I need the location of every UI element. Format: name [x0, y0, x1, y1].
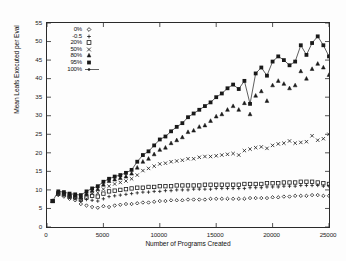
- series-0: [51, 193, 329, 209]
- legend-label: 20%: [53, 39, 82, 46]
- legend-item: 20%: [53, 39, 105, 46]
- legend-marker-plus-icon: [85, 33, 105, 40]
- y-tick-label: 25: [20, 130, 42, 137]
- legend-item: 100%: [53, 66, 105, 73]
- legend-label: 80%: [53, 52, 82, 59]
- y-axis-label: Mean Leafs Executed per Eval: [13, 0, 20, 140]
- legend-label: 100%: [53, 66, 82, 73]
- legend-item: 95%: [53, 59, 105, 66]
- y-tick-label: 20: [20, 149, 42, 156]
- y-tick-label: 0: [20, 223, 42, 230]
- x-tick-label: 0: [26, 231, 66, 238]
- y-tick-label: 5: [20, 204, 42, 211]
- y-tick-label: 35: [20, 93, 42, 100]
- legend-item: -0.5: [53, 33, 105, 40]
- legend-label: 0%: [53, 26, 82, 33]
- legend-marker-circle-filled-line-icon: [85, 66, 105, 73]
- legend-marker-square-open-icon: [85, 39, 105, 46]
- series-80: [51, 62, 329, 203]
- legend-label: 95%: [53, 59, 82, 66]
- y-tick-label: 50: [20, 37, 42, 44]
- x-tick-label: 15000: [195, 231, 235, 238]
- y-tick-label: 15: [20, 167, 42, 174]
- y-tick-label: 30: [20, 111, 42, 118]
- x-axis-label: Number of Programs Created: [46, 240, 330, 247]
- legend-marker-diamond-icon: [85, 26, 105, 33]
- legend-label: 50%: [53, 46, 82, 53]
- legend-item: 80%: [53, 52, 105, 59]
- legend-marker-x-icon: [85, 46, 105, 53]
- chart-legend: 0%-0.520%50%80%95%100%: [53, 26, 105, 72]
- y-tick-label: 40: [20, 74, 42, 81]
- legend-label: -0.5: [53, 33, 82, 40]
- legend-marker-triangle-icon: [85, 52, 105, 59]
- x-tick-label: 25000: [308, 231, 346, 238]
- x-tick-label: 20000: [252, 231, 292, 238]
- x-tick-label: 10000: [139, 231, 179, 238]
- legend-item: 50%: [53, 46, 105, 53]
- legend-item: 0%: [53, 26, 105, 33]
- x-tick-label: 5000: [82, 231, 122, 238]
- legend-marker-square-filled-icon: [85, 59, 105, 66]
- chart-figure: Mean Leafs Executed per Eval 05101520253…: [0, 0, 346, 261]
- y-tick-label: 10: [20, 186, 42, 193]
- y-tick-label: 55: [20, 19, 42, 26]
- y-tick-label: 45: [20, 56, 42, 63]
